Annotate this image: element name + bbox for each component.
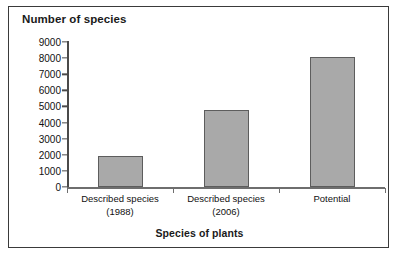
y-axis-tick-label: 4000: [15, 117, 61, 128]
chart-title: Number of species: [22, 13, 127, 25]
bar: [98, 156, 143, 187]
plot-area: [67, 42, 385, 187]
y-axis-tick-label: 8000: [15, 53, 61, 64]
bar-chart-figure: Number of species 0100020003000400050006…: [0, 0, 399, 258]
x-axis-end-tick: [385, 188, 386, 193]
x-axis-category-label: Described species(1988): [67, 192, 173, 218]
y-axis-tick-label: 6000: [15, 85, 61, 96]
x-axis-category-label: Potential: [279, 192, 385, 205]
bar: [310, 57, 355, 188]
category-label-line2: (1988): [67, 205, 173, 218]
x-axis-category-label: Described species(2006): [173, 192, 279, 218]
bar: [204, 110, 249, 187]
category-label-line1: Described species: [173, 192, 279, 205]
y-axis-tick-label: 3000: [15, 133, 61, 144]
x-axis-category-separator-tick: [279, 188, 280, 193]
y-axis-tick-label: 5000: [15, 101, 61, 112]
y-axis-tick-label: 2000: [15, 149, 61, 160]
category-label-line1: Potential: [279, 192, 385, 205]
y-axis-tick-label: 1000: [15, 165, 61, 176]
category-label-line2: (2006): [173, 205, 279, 218]
y-axis-tick-label: 7000: [15, 69, 61, 80]
y-axis-tick-label: 9000: [15, 37, 61, 48]
y-axis-tick-label: 0: [15, 182, 61, 193]
x-axis-end-tick: [67, 188, 68, 193]
category-label-line1: Described species: [67, 192, 173, 205]
x-axis-title: Species of plants: [0, 227, 399, 239]
x-axis-category-separator-tick: [173, 188, 174, 193]
x-axis-line: [67, 187, 385, 189]
